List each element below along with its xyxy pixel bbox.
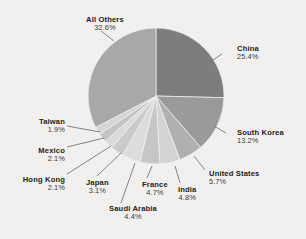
slice-label-value: 2.1% (23, 184, 65, 192)
slice-label-value: 2.1% (38, 155, 65, 163)
leader-line (101, 31, 114, 41)
pie-slice-label: India4.8% (178, 186, 196, 202)
pie-slice-label: Hong Kong2.1% (23, 176, 65, 192)
leader-line (175, 166, 180, 183)
slice-label-value: 4.4% (109, 213, 157, 221)
leader-line (214, 126, 226, 133)
slice-label-value: 32.6% (86, 24, 124, 32)
slice-label-value: 13.2% (237, 137, 284, 145)
pie-slice-label: Saudi Arabia4.4% (109, 205, 157, 221)
pie-slice[interactable] (156, 28, 224, 98)
pie-slice-label: China25.4% (237, 45, 259, 61)
leader-line (147, 166, 152, 178)
pie-chart-figure: China25.4%South Korea13.2%United States5… (0, 0, 306, 239)
leader-line (194, 156, 205, 170)
slice-label-value: 25.4% (237, 53, 259, 61)
pie-slice-label: All Others32.6% (86, 16, 124, 32)
leader-line (67, 138, 104, 147)
slice-label-value: 1.9% (39, 126, 65, 134)
pie-slice-label: France4.7% (142, 181, 168, 197)
slice-label-value: 3.1% (86, 187, 109, 195)
leader-line (67, 146, 111, 174)
pie-slice-label: Taiwan1.9% (39, 118, 65, 134)
pie-slice-label: Japan3.1% (86, 179, 109, 195)
pie-slice-label: Mexico2.1% (38, 147, 65, 163)
pie-slice-label: United States5.7% (209, 170, 259, 186)
leader-line (97, 153, 121, 176)
slice-label-value: 4.8% (178, 194, 196, 202)
leader-line (121, 163, 135, 203)
pie-slices (88, 28, 224, 164)
slice-label-value: 4.7% (142, 189, 168, 197)
pie-slice-label: South Korea13.2% (237, 129, 284, 145)
slice-label-value: 5.7% (209, 178, 259, 186)
